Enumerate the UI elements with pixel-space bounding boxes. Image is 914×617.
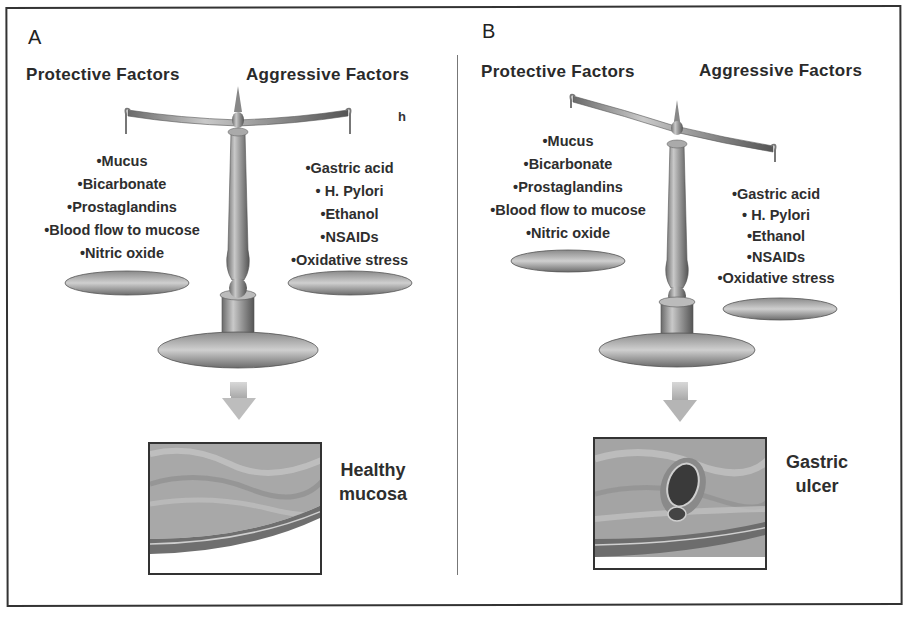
panel-a-down-arrow-icon	[222, 380, 256, 420]
outcome-line-2: ulcer	[782, 474, 852, 498]
panel-b-down-arrow-icon	[663, 380, 697, 422]
list-item: Bicarbonate	[22, 173, 222, 196]
outcome-line-1: Gastric	[782, 450, 852, 474]
list-item: Blood flow to mucose	[468, 199, 668, 222]
list-item: NSAIDs	[698, 247, 854, 268]
list-item: Nitric oxide	[22, 242, 222, 265]
panel-b-outcome-label: Gastric ulcer	[782, 450, 852, 498]
panel-b-gastric-ulcer-image	[593, 437, 767, 570]
list-item: Prostaglandins	[468, 176, 668, 199]
list-item: Prostaglandins	[22, 196, 222, 219]
list-item: Mucus	[468, 130, 668, 153]
panel-a-protective-list: Mucus Bicarbonate Prostaglandins Blood f…	[22, 150, 222, 265]
list-item: Ethanol	[262, 203, 437, 226]
panel-a-aggressive-list: Gastric acid H. Pylori Ethanol NSAIDs Ox…	[262, 157, 437, 272]
list-item: H. Pylori	[698, 205, 854, 226]
panel-b-aggressive-list: Gastric acid H. Pylori Ethanol NSAIDs Ox…	[698, 184, 854, 289]
list-item: Gastric acid	[262, 157, 437, 180]
list-item: Ethanol	[698, 226, 854, 247]
list-item: Gastric acid	[698, 184, 854, 205]
panel-a-healthy-mucosa-image	[148, 442, 322, 575]
outcome-line-1: Healthy	[336, 458, 410, 482]
list-item: Oxidative stress	[698, 268, 854, 289]
list-item: H. Pylori	[262, 180, 437, 203]
list-item: Oxidative stress	[262, 249, 437, 272]
list-item: Nitric oxide	[468, 222, 668, 245]
panel-a-outcome-label: Healthy mucosa	[336, 458, 410, 506]
panel-b-protective-list: Mucus Bicarbonate Prostaglandins Blood f…	[468, 130, 668, 245]
list-item: Blood flow to mucose	[22, 219, 222, 242]
list-item: NSAIDs	[262, 226, 437, 249]
list-item: Bicarbonate	[468, 153, 668, 176]
outcome-line-2: mucosa	[336, 482, 410, 506]
list-item: Mucus	[22, 150, 222, 173]
